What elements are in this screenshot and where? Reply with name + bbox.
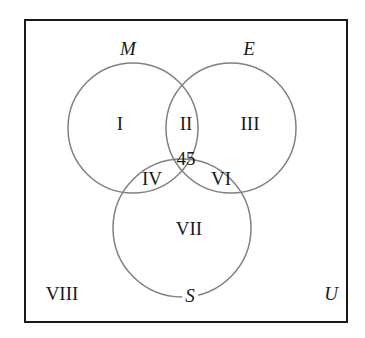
region-label-m-only: I: [117, 114, 123, 133]
circle-label-e: E: [240, 39, 258, 58]
region-label-m-and-e: II: [180, 114, 193, 133]
venn-diagram-figure: M E S U I II III IV 45 VI VII VIII: [0, 0, 365, 338]
circle-label-m: M: [117, 39, 139, 58]
region-label-m-and-s: IV: [142, 169, 162, 188]
circle-m-shape: [68, 63, 198, 193]
universal-set-rect: [25, 20, 347, 322]
universal-set-label: U: [324, 284, 338, 303]
region-label-outside-all: VIII: [46, 284, 79, 303]
region-label-m-and-e-and-s: 45: [177, 149, 196, 168]
region-label-e-and-s: VI: [211, 169, 231, 188]
region-label-s-only: VII: [176, 219, 202, 238]
circle-label-s: S: [182, 286, 198, 305]
region-label-e-only: III: [241, 114, 260, 133]
